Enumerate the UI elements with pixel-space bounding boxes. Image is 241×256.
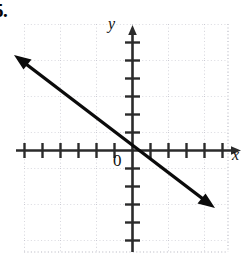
graph-figure: 5. [0,0,241,256]
y-axis-label: y [108,16,115,32]
origin-label: 0 [113,152,122,169]
grid-area [24,24,228,252]
coordinate-plot [0,0,241,256]
x-axis-label: x [232,147,239,163]
